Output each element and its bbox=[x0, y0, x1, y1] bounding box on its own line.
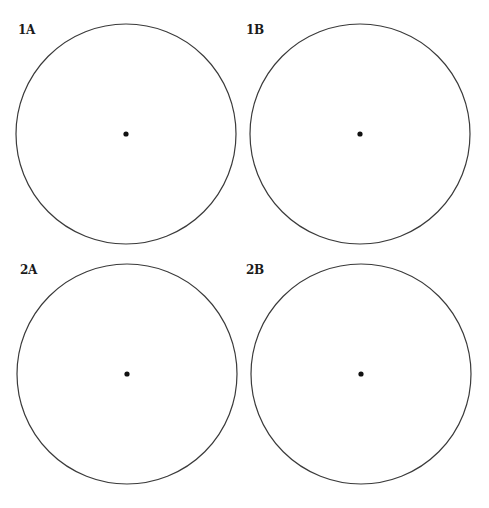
panel-1a bbox=[16, 24, 236, 244]
center-dot-2b bbox=[358, 371, 363, 376]
panel-2a bbox=[17, 264, 237, 484]
center-dot-1a bbox=[123, 131, 128, 136]
panel-1b bbox=[250, 24, 470, 244]
panel-label-1a: 1A bbox=[18, 24, 35, 36]
panel-label-2b: 2B bbox=[246, 264, 264, 276]
figure-canvas bbox=[0, 0, 489, 508]
panel-2b bbox=[251, 264, 471, 484]
center-dot-1b bbox=[357, 131, 362, 136]
panel-label-1b: 1B bbox=[246, 24, 264, 36]
center-dot-2a bbox=[124, 371, 129, 376]
panel-label-2a: 2A bbox=[20, 264, 37, 276]
